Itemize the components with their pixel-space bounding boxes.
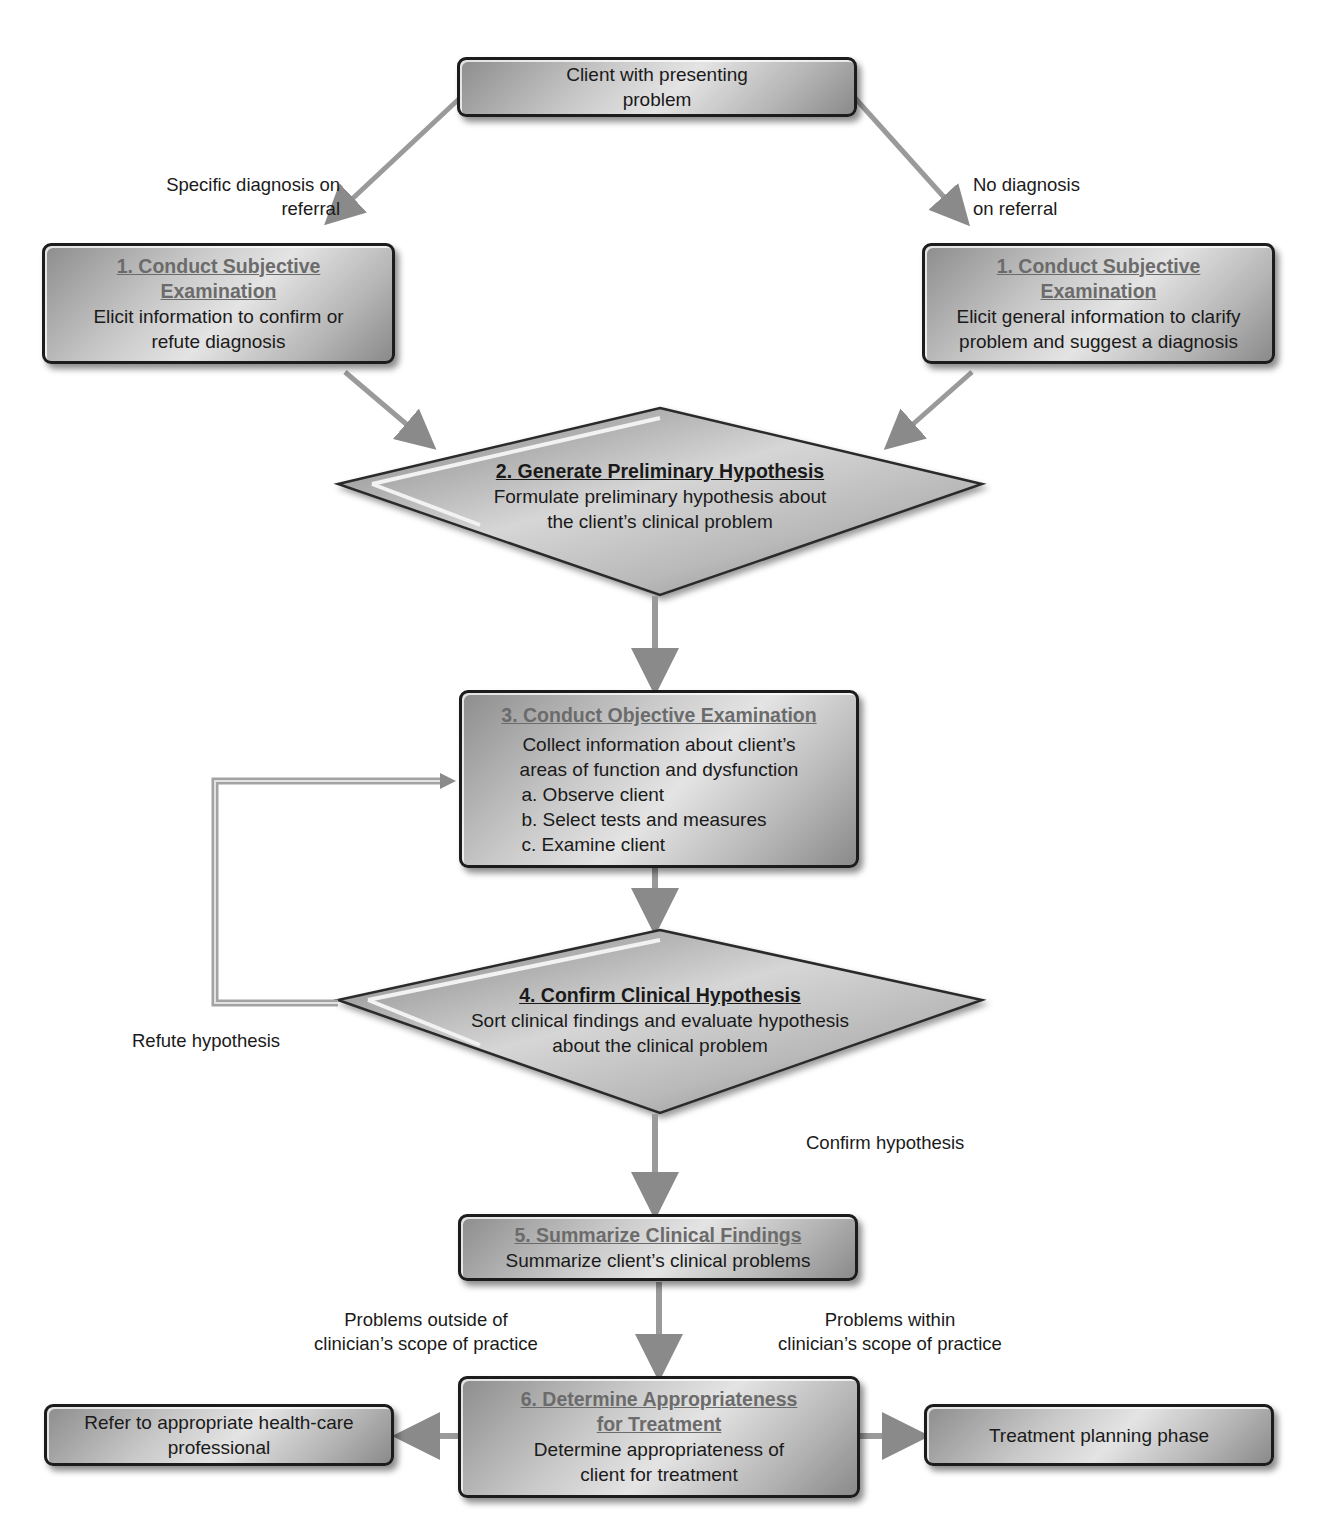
step2-text: 2. Generate Preliminary Hypothesis Formu… bbox=[400, 458, 920, 534]
step5-box: 5. Summarize Clinical Findings Summarize… bbox=[458, 1214, 858, 1281]
confirm-hypothesis-label: Confirm hypothesis bbox=[806, 1131, 964, 1155]
refer-outcome-text: Refer to appropriate health-careprofessi… bbox=[84, 1410, 353, 1460]
arrow-start-to-right bbox=[855, 98, 960, 215]
refute-loop-arrow bbox=[215, 773, 456, 1003]
step3-list: a. Observe client b. Select tests and me… bbox=[521, 782, 766, 857]
step4-body: Sort clinical findings and evaluate hypo… bbox=[390, 1008, 930, 1058]
refer-outcome-box: Refer to appropriate health-careprofessi… bbox=[44, 1404, 394, 1466]
step2-body: Formulate preliminary hypothesis aboutth… bbox=[400, 484, 920, 534]
treatment-outcome-box: Treatment planning phase bbox=[924, 1404, 1274, 1466]
arrow-right1-to-step2 bbox=[895, 372, 972, 440]
scope-outside-label: Problems outside ofclinician’s scope of … bbox=[298, 1308, 554, 1356]
step3-item: c. Examine client bbox=[521, 832, 766, 857]
step4-title: 4. Confirm Clinical Hypothesis bbox=[390, 982, 930, 1008]
start-text: Client with presenting problem bbox=[532, 62, 782, 112]
arrow-left1-to-step2 bbox=[345, 372, 425, 440]
branch-label-left: Specific diagnosis on referral bbox=[150, 173, 340, 221]
step1-left-title: 1. Conduct SubjectiveExamination bbox=[117, 254, 321, 304]
step3-item: b. Select tests and measures bbox=[521, 807, 766, 832]
step1-right-box: 1. Conduct SubjectiveExamination Elicit … bbox=[922, 243, 1275, 364]
step6-body: Determine appropriateness ofclient for t… bbox=[534, 1437, 784, 1487]
step6-box: 6. Determine Appropriatenessfor Treatmen… bbox=[458, 1376, 860, 1498]
step1-right-title: 1. Conduct SubjectiveExamination bbox=[997, 254, 1201, 304]
step1-left-body: Elicit information to confirm orrefute d… bbox=[93, 304, 343, 354]
scope-within-label: Problems withinclinician’s scope of prac… bbox=[762, 1308, 1018, 1356]
step3-body: Collect information about client’sareas … bbox=[520, 732, 799, 782]
step1-left-box: 1. Conduct SubjectiveExamination Elicit … bbox=[42, 243, 395, 364]
step4-text: 4. Confirm Clinical Hypothesis Sort clin… bbox=[390, 982, 930, 1058]
step3-box: 3. Conduct Objective Examination Collect… bbox=[459, 690, 859, 868]
step6-title: 6. Determine Appropriatenessfor Treatmen… bbox=[521, 1387, 798, 1437]
step5-body: Summarize client’s clinical problems bbox=[506, 1248, 811, 1273]
step3-item: a. Observe client bbox=[521, 782, 766, 807]
refute-hypothesis-label: Refute hypothesis bbox=[132, 1029, 280, 1053]
step1-right-body: Elicit general information to clarifypro… bbox=[956, 304, 1240, 354]
step5-title: 5. Summarize Clinical Findings bbox=[514, 1223, 801, 1248]
branch-label-right: No diagnosis on referral bbox=[973, 173, 1103, 221]
treatment-outcome-text: Treatment planning phase bbox=[989, 1423, 1209, 1448]
step3-title: 3. Conduct Objective Examination bbox=[501, 703, 816, 728]
start-node: Client with presenting problem bbox=[457, 57, 857, 117]
arrow-start-to-left bbox=[335, 98, 460, 215]
step2-title: 2. Generate Preliminary Hypothesis bbox=[400, 458, 920, 484]
